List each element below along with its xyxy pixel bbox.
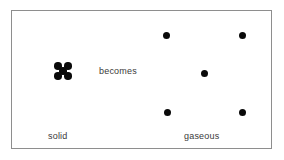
gaseous-particle	[164, 109, 171, 116]
gaseous-particle-group	[0, 0, 284, 160]
gaseous-particle	[163, 32, 170, 39]
gaseous-particle	[239, 32, 246, 39]
gaseous-particle	[201, 70, 208, 77]
solid-state-label: solid	[48, 131, 68, 141]
gaseous-state-label: gaseous	[184, 131, 219, 141]
phase-change-diagram: becomes solid gaseous	[0, 0, 284, 160]
gaseous-particle	[239, 109, 246, 116]
